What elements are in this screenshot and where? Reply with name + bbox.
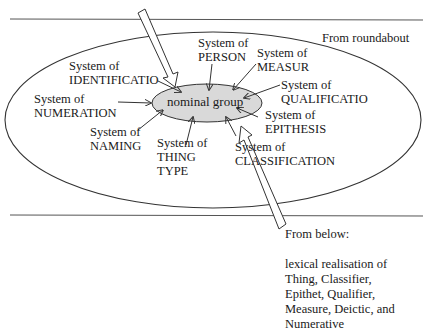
system-classification-label: System of CLASSIFICATION — [235, 140, 335, 168]
numeration-arrow — [118, 102, 151, 103]
top-divider-line — [10, 19, 423, 20]
system-measure-label: System of MEASUR — [257, 46, 309, 74]
nominal-group-label: nominal group — [167, 94, 243, 110]
system-numeration-label: System of NUMERATION — [34, 92, 117, 120]
system-naming-label: System of NAMING — [90, 125, 141, 153]
measure-arrow — [233, 64, 256, 90]
system-epithesis-label: System of EPITHESIS — [265, 108, 326, 136]
system-identification-label: System of IDENTIFICATIO — [69, 59, 159, 87]
nominal-group-diagram: nominal group From roundabout System of … — [0, 0, 432, 331]
naming-arrow — [138, 110, 163, 130]
system-thing-type-label: System of THING TYPE — [157, 136, 207, 178]
system-qualification-label: System of QUALIFICATIO — [281, 78, 368, 106]
system-person-label: System of PERSON — [198, 36, 248, 64]
from-roundabout-label: From roundabout — [322, 31, 409, 45]
from-below-note: From below: lexical realisation of Thing… — [285, 227, 395, 331]
bottom-divider-line — [10, 215, 423, 216]
from-below-label: From below: — [285, 227, 395, 242]
